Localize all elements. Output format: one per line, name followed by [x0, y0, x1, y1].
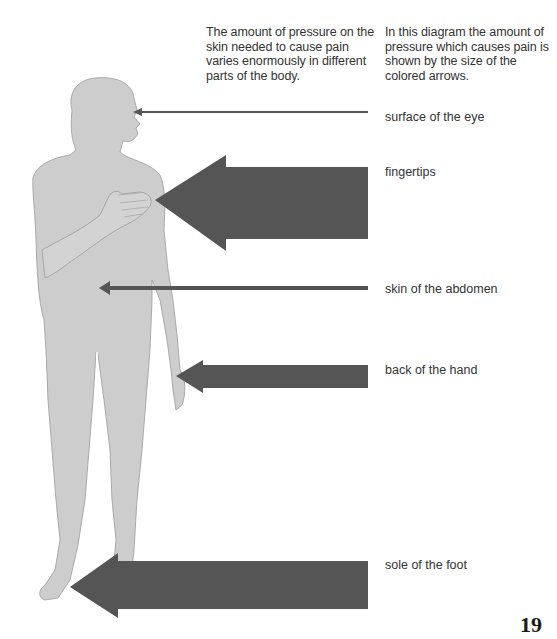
label-skin-of-abdomen: skin of the abdomen	[385, 282, 498, 296]
page-number: 19	[520, 612, 542, 638]
intro-text-right: In this diagram the amount of pressure w…	[385, 25, 555, 83]
label-back-of-hand: back of the hand	[385, 363, 477, 377]
arrow-foot	[70, 553, 368, 618]
intro-text-left: The amount of pressure on the skin neede…	[206, 25, 376, 83]
arrow-hand	[176, 360, 368, 393]
arrow-fingertips	[155, 155, 368, 251]
label-sole-of-foot: sole of the foot	[385, 558, 467, 572]
human-silhouette	[33, 78, 185, 600]
arrow-eye	[133, 108, 368, 116]
label-surface-of-eye: surface of the eye	[385, 110, 484, 124]
body-diagram	[0, 0, 557, 639]
label-fingertips: fingertips	[385, 165, 436, 179]
